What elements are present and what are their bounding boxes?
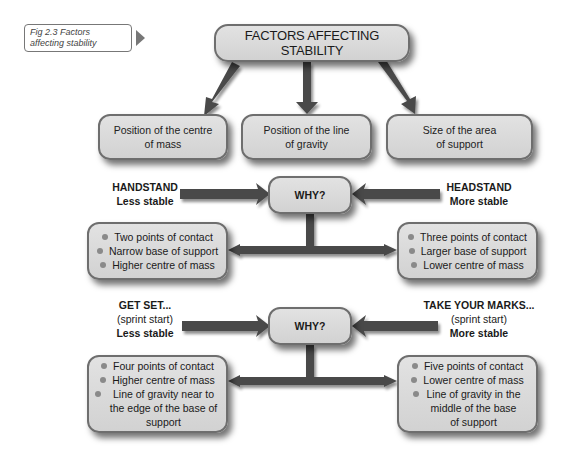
- list-item-text: Higher centre of mass: [112, 373, 215, 387]
- list-item-text: Narrow base of support: [109, 244, 218, 258]
- list-item: Line of gravity in the middle of the bas…: [399, 387, 536, 429]
- bullet-icon: [411, 377, 417, 383]
- get-set-reasons: Four points of contact Higher centre of …: [87, 355, 228, 433]
- get-set-label: GET SET... (sprint start) Less stable: [100, 298, 190, 340]
- position-note: (sprint start): [100, 312, 190, 326]
- title-box: FACTORS AFFECTING STABILITY: [214, 24, 410, 62]
- bullet-icon: [100, 377, 106, 383]
- factor-area-of-support: Size of the area of support: [386, 114, 533, 160]
- bullet-icon: [100, 262, 106, 268]
- list-item: Lower centre of mass: [411, 373, 523, 387]
- list-item: Higher centre of mass: [100, 373, 215, 387]
- bullet-icon: [101, 363, 107, 369]
- bullet-icon: [95, 391, 101, 397]
- bullet-icon: [409, 248, 415, 254]
- factor-line: of support: [423, 137, 497, 151]
- factor-line-of-gravity: Position of the line of gravity: [241, 114, 372, 160]
- position-name: GET SET...: [100, 298, 190, 312]
- list-item: Line of gravity near to the edge of the …: [89, 387, 226, 429]
- bullet-icon: [97, 248, 103, 254]
- why-text: WHY?: [295, 189, 326, 201]
- factor-line: of mass: [114, 137, 213, 151]
- stability-verdict: Less stable: [100, 194, 190, 208]
- bullet-icon: [102, 234, 108, 240]
- factor-line: Size of the area: [423, 123, 497, 137]
- bullet-icon: [408, 234, 414, 240]
- list-item-text: Three points of contact: [420, 230, 527, 244]
- list-item: Four points of contact: [101, 359, 214, 373]
- handstand-reasons: Two points of contact Narrow base of sup…: [87, 222, 228, 280]
- why-box: WHY?: [268, 307, 352, 345]
- factor-line: Position of the centre: [114, 123, 213, 137]
- factor-line: of gravity: [264, 137, 350, 151]
- handstand-label: HANDSTAND Less stable: [100, 180, 190, 208]
- list-item-text: Larger base of support: [421, 244, 527, 258]
- list-item: Three points of contact: [408, 230, 527, 244]
- why-box: WHY?: [268, 176, 352, 214]
- list-item: Larger base of support: [409, 244, 527, 258]
- list-item-text: Lower centre of mass: [423, 258, 523, 272]
- bullet-icon: [411, 262, 417, 268]
- figure-caption: Fig 2.3 Factors affecting stability: [24, 24, 132, 52]
- list-item: Lower centre of mass: [411, 258, 523, 272]
- stability-verdict: Less stable: [100, 326, 190, 340]
- list-item: Narrow base of support: [97, 244, 218, 258]
- take-your-marks-reasons: Five points of contact Lower centre of m…: [397, 355, 538, 433]
- list-item: Five points of contact: [412, 359, 523, 373]
- list-item-text: Five points of contact: [424, 359, 523, 373]
- list-item-text: Higher centre of mass: [112, 258, 215, 272]
- position-name: HEADSTAND: [434, 180, 524, 194]
- list-item: Higher centre of mass: [100, 258, 215, 272]
- position-name: HANDSTAND: [100, 180, 190, 194]
- list-item-text: Line of gravity in the middle of the bas…: [425, 387, 522, 429]
- factor-line: Position of the line: [264, 123, 350, 137]
- list-item-text: Two points of contact: [114, 230, 213, 244]
- factor-centre-of-mass: Position of the centre of mass: [98, 114, 228, 160]
- list-item-text: Line of gravity near to the edge of the …: [107, 387, 220, 429]
- list-item: Two points of contact: [102, 230, 213, 244]
- headstand-reasons: Three points of contact Larger base of s…: [397, 222, 538, 280]
- position-name: TAKE YOUR MARKS...: [414, 298, 544, 312]
- stability-verdict: More stable: [434, 194, 524, 208]
- bullet-icon: [412, 363, 418, 369]
- position-note: (sprint start): [414, 312, 544, 326]
- bullet-icon: [413, 391, 419, 397]
- caption-pointer-icon: [136, 30, 145, 46]
- list-item-text: Four points of contact: [113, 359, 214, 373]
- list-item-text: Lower centre of mass: [423, 373, 523, 387]
- stability-verdict: More stable: [414, 326, 544, 340]
- headstand-label: HEADSTAND More stable: [434, 180, 524, 208]
- why-text: WHY?: [295, 320, 326, 332]
- title-text: FACTORS AFFECTING STABILITY: [216, 28, 408, 58]
- take-your-marks-label: TAKE YOUR MARKS... (sprint start) More s…: [414, 298, 544, 340]
